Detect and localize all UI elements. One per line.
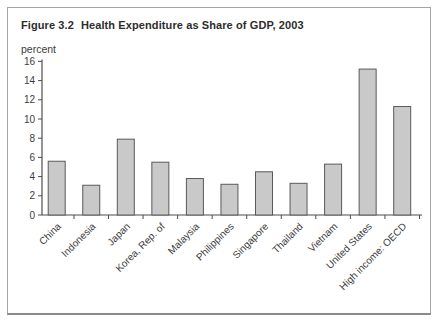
bar — [221, 184, 238, 215]
x-axis-category-label: Philippines — [194, 221, 236, 263]
bar — [186, 179, 203, 215]
figure-container: Figure 3.2Health Expenditure as Share of… — [0, 0, 438, 328]
y-axis-tick-label: 14 — [24, 75, 36, 86]
y-axis-tick-label: 10 — [24, 114, 36, 125]
x-axis-category-label: Indonesia — [59, 220, 98, 259]
bar — [83, 185, 100, 215]
bar — [152, 162, 169, 215]
x-axis-category-label: Malaysia — [166, 220, 202, 256]
x-axis-category-label: Japan — [105, 221, 132, 248]
y-axis-tick-label: 8 — [29, 133, 35, 144]
bar — [359, 69, 376, 215]
bar-chart: 0246810121416ChinaIndonesiaJapanKorea, R… — [8, 55, 430, 313]
y-axis-tick-label: 16 — [24, 56, 36, 67]
bar — [394, 107, 411, 215]
x-axis-category-label: Singapore — [230, 220, 270, 260]
x-axis-category-label: Vietnam — [306, 221, 340, 255]
bar — [48, 161, 65, 215]
x-axis-category-label: High income: OECD — [337, 221, 408, 292]
figure-box: Figure 3.2Health Expenditure as Share of… — [7, 7, 431, 315]
bar — [325, 164, 342, 215]
y-axis-tick-label: 6 — [29, 152, 35, 163]
figure-title: Health Expenditure as Share of GDP, 2003 — [81, 19, 304, 31]
x-axis-category-label: Thailand — [270, 221, 305, 256]
y-axis-tick-label: 12 — [24, 94, 36, 105]
y-axis-tick-label: 4 — [29, 171, 35, 182]
bar — [117, 139, 134, 215]
figure-caption: Figure 3.2Health Expenditure as Share of… — [21, 19, 304, 31]
bar — [256, 172, 273, 215]
bar — [290, 183, 307, 215]
y-axis-tick-label: 0 — [29, 210, 35, 221]
figure-number: Figure 3.2 — [21, 19, 74, 31]
y-axis-tick-label: 2 — [29, 190, 35, 201]
y-axis-unit-label: percent — [21, 43, 56, 55]
x-axis-category-label: China — [37, 220, 64, 247]
